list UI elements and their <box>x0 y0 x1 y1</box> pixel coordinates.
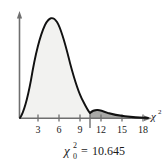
x-tick-label-18: 18 <box>138 124 148 135</box>
x-tick-label-15: 15 <box>117 124 127 135</box>
critical-value-annotation: χ 2 0 = 10.645 <box>62 141 125 161</box>
annotation-chi-exponent: 2 <box>73 141 77 150</box>
annotation-value: 10.645 <box>92 144 125 158</box>
annotation-equals-sign: = <box>81 144 88 158</box>
x-axis-chi-symbol: χ <box>150 110 157 122</box>
annotation-chi-subscript: 0 <box>73 152 77 161</box>
x-tick-label-9: 9 <box>78 124 83 135</box>
chi-square-plot: 3 6 9 12 15 18 χ 2 χ 2 0 = 10.645 <box>0 0 164 164</box>
x-axis-title: χ 2 <box>150 108 162 122</box>
y-axis-arrow-icon <box>17 11 22 19</box>
x-tick-label-3: 3 <box>36 124 41 135</box>
x-tick-label-6: 6 <box>57 124 62 135</box>
non-rejection-region-fill <box>20 18 90 118</box>
x-axis-chi-exponent: 2 <box>158 108 162 116</box>
annotation-chi-symbol: χ <box>62 143 70 158</box>
x-tick-label-12: 12 <box>96 124 106 135</box>
chi-square-distribution-figure: 3 6 9 12 15 18 χ 2 χ 2 0 = 10.645 <box>0 0 164 164</box>
